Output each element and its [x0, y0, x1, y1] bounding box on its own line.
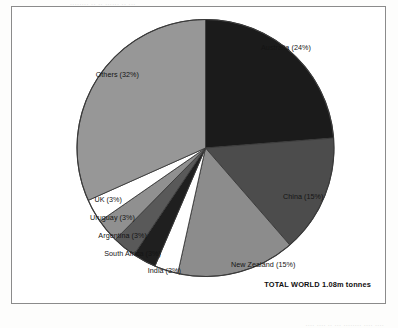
- pie-label-uk: UK (3%): [94, 195, 122, 204]
- pie-label-new-zealand: New Zealand (15%): [231, 260, 295, 269]
- pie-label-south-africa: South Africa (3%): [104, 249, 161, 258]
- scan-artifact-bottom: .... .... .. ... ........ .... ....: [305, 320, 384, 327]
- pie-label-australia: Australia (24%): [261, 43, 311, 52]
- scan-artifact-top: ........ .. .. ...... .. ...: [70, 0, 330, 5]
- pie-label-argentina: Argentina (3%): [98, 231, 147, 240]
- pie-label-india: India (3%): [148, 266, 181, 275]
- pie-label-uruguay: Uruguay (3%): [90, 213, 135, 222]
- pie-slice-australia[interactable]: [206, 20, 334, 149]
- page-root: ........ .. .. ...... .. ... Australia (…: [0, 0, 398, 328]
- pie-chart: Australia (24%) China (15%) New Zealand …: [12, 7, 385, 303]
- figure-frame: Australia (24%) China (15%) New Zealand …: [11, 6, 386, 304]
- pie-label-others: Others (32%): [96, 70, 139, 79]
- total-world-caption: TOTAL WORLD 1.08m tonnes: [264, 280, 371, 289]
- pie-chart-svg: [12, 7, 387, 305]
- pie-label-china: China (15%): [283, 192, 324, 201]
